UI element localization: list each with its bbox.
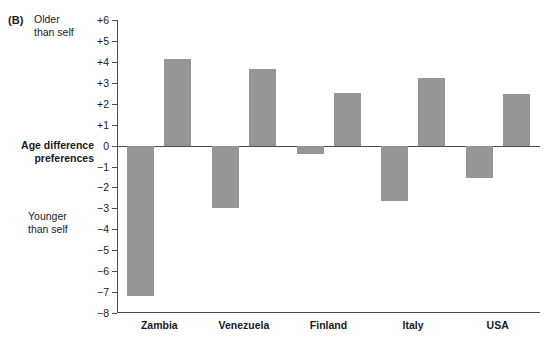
y-tick-label: +5 (97, 35, 109, 47)
category-label-italy: Italy (403, 319, 424, 331)
y-tick-mark (112, 62, 117, 63)
y-tick-mark (112, 104, 117, 105)
y-tick-label: +1 (97, 119, 109, 131)
y-tick-label: 0 (103, 140, 109, 152)
bar (164, 59, 191, 146)
category-label-usa: USA (487, 319, 509, 331)
y-tick-mark (112, 83, 117, 84)
older-than-self-label: Older than self (34, 13, 94, 39)
bar (127, 146, 154, 297)
x-axis-line (117, 312, 540, 313)
y-tick-label: +3 (97, 77, 109, 89)
y-tick-label: −3 (97, 202, 109, 214)
y-tick-label: −6 (97, 265, 109, 277)
y-tick-mark (112, 167, 117, 168)
y-tick-label: −7 (97, 286, 109, 298)
y-tick-label: −5 (97, 244, 109, 256)
figure-panel-b: (B) Older than self Age difference prefe… (0, 0, 558, 344)
bar (212, 146, 239, 209)
panel-letter: (B) (8, 14, 24, 26)
category-label-venezuela: Venezuela (219, 319, 270, 331)
bar (466, 146, 493, 178)
y-tick-label: +2 (97, 98, 109, 110)
bar (334, 93, 361, 145)
y-tick-label: −2 (97, 181, 109, 193)
y-tick-mark (112, 41, 117, 42)
y-tick-mark (112, 187, 117, 188)
younger-than-self-label: Younger than self (28, 210, 94, 236)
y-tick-mark (112, 229, 117, 230)
y-tick-mark (112, 271, 117, 272)
y-tick-mark (112, 20, 117, 21)
bar (418, 78, 445, 146)
bar (297, 146, 324, 154)
y-tick-mark (112, 146, 117, 147)
y-axis-title: Age difference preferences (2, 139, 94, 165)
y-tick-label: −4 (97, 223, 109, 235)
bar (503, 94, 530, 145)
y-tick-mark (112, 125, 117, 126)
plot-area: +6+5+4+3+2+10−1−2−3−4−5−6−7−8 ZambiaVene… (117, 20, 540, 313)
category-label-zambia: Zambia (141, 319, 178, 331)
y-axis-line (117, 20, 118, 313)
y-tick-mark (112, 292, 117, 293)
y-tick-label: +4 (97, 56, 109, 68)
y-tick-mark (112, 250, 117, 251)
bar (381, 146, 408, 201)
y-tick-label: −1 (97, 161, 109, 173)
y-tick-mark (112, 313, 117, 314)
bar (249, 69, 276, 145)
y-tick-label: +6 (97, 14, 109, 26)
y-tick-label: −8 (97, 307, 109, 319)
category-label-finland: Finland (310, 319, 347, 331)
y-tick-mark (112, 208, 117, 209)
